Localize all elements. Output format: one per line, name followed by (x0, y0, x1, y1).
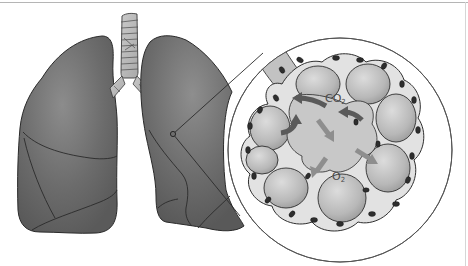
magnifier-circle (228, 38, 452, 262)
diagram-frame: CO2 O2 (0, 0, 468, 266)
lungs-diagram: CO2 O2 (0, 0, 468, 266)
trachea (121, 13, 138, 78)
location-marker (170, 131, 175, 136)
left-lung (18, 36, 118, 233)
